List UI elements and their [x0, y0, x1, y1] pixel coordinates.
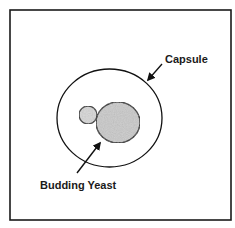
- budding-yeast-label: Budding Yeast: [40, 179, 117, 191]
- mother-yeast-cell: [96, 102, 140, 143]
- budding-yeast-diagram: Capsule Budding Yeast: [0, 0, 235, 228]
- capsule-arrow: [148, 64, 162, 80]
- capsule-label: Capsule: [165, 53, 208, 65]
- budding-yeast-arrow: [77, 143, 100, 173]
- yeast-bud: [79, 106, 97, 124]
